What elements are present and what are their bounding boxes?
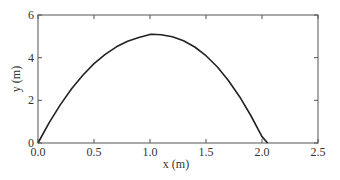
y-tick-label: 2 [28, 93, 34, 107]
y-tick-label: 6 [28, 8, 34, 22]
x-axis-label: x (m) [163, 157, 189, 171]
y-axis-ticks: 0246 [28, 8, 318, 150]
x-tick-label: 1.0 [143, 145, 158, 159]
x-tick-label: 2.5 [311, 145, 326, 159]
y-tick-label: 0 [28, 136, 34, 150]
y-tick-label: 4 [28, 51, 34, 65]
y-axis-label: y (m) [9, 66, 23, 92]
trajectory-chart: 0.00.51.01.52.02.5 0246 x (m) y (m) [0, 0, 340, 180]
trajectory-line [38, 34, 268, 143]
x-tick-label: 0.5 [87, 145, 102, 159]
x-tick-label: 2.0 [255, 145, 270, 159]
x-tick-label: 1.5 [199, 145, 214, 159]
plot-area [38, 15, 318, 143]
x-axis-ticks: 0.00.51.01.52.02.5 [31, 15, 326, 159]
